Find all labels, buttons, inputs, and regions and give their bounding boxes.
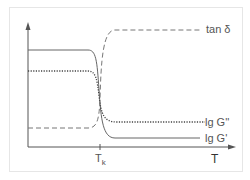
legend-g-double-prime: lg G'' <box>205 117 229 128</box>
series-g-double-prime <box>28 71 205 122</box>
tk-subscript: k <box>102 158 106 167</box>
x-axis-arrow-icon <box>228 145 236 150</box>
axes <box>28 28 230 147</box>
legend-tan-delta: tan δ <box>206 24 230 35</box>
tk-label: Tk <box>95 153 106 167</box>
legend-g-prime: lg G' <box>205 133 227 144</box>
series-g-prime <box>28 50 200 138</box>
tk-main: T <box>95 152 102 164</box>
y-axis-arrow-icon <box>26 22 31 30</box>
x-axis-label: T <box>211 153 218 165</box>
series-tan-delta <box>28 30 200 128</box>
